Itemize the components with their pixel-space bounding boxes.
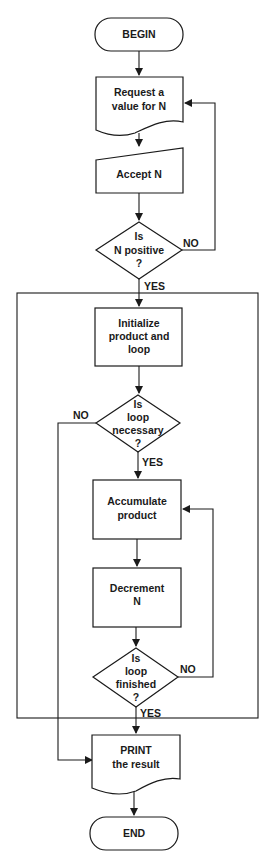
node-request-label-2: value for N <box>112 100 166 112</box>
node-loop-finished-label-4: ? <box>133 691 139 703</box>
node-loop-necessary: Is loop necessary ? <box>96 395 180 452</box>
edge-label-positive-no: NO <box>183 237 199 249</box>
node-decrement-label-2: N <box>133 595 141 607</box>
node-initialize-label-1: Initialize <box>118 317 160 329</box>
node-print-label-2: the result <box>112 758 160 770</box>
edge-label-finished-yes: YES <box>140 707 161 719</box>
edge-finished-no <box>178 509 213 677</box>
edge-positive-no <box>182 103 215 250</box>
edge-label-finished-no: NO <box>180 663 196 675</box>
node-loop-finished-label-2: loop <box>125 665 147 677</box>
node-print: PRINT the result <box>92 735 180 794</box>
node-end-label: END <box>123 827 146 839</box>
node-loop-necessary-label-3: necessary <box>112 424 164 436</box>
node-loop-finished: Is loop finished ? <box>93 648 178 707</box>
node-accumulate: Accumulate product <box>93 480 181 539</box>
node-accept: Accept N <box>96 148 183 193</box>
node-decrement-label-1: Decrement <box>110 582 165 594</box>
node-loop-necessary-label-2: loop <box>127 411 149 423</box>
node-accumulate-label-2: product <box>117 509 157 521</box>
edge-label-necessary-yes: YES <box>142 456 163 468</box>
node-decrement: Decrement N <box>93 568 181 627</box>
node-initialize-label-2: product and <box>109 330 170 342</box>
flowchart: BEGIN Request a value for N Accept N Is … <box>0 0 261 862</box>
node-loop-necessary-label-1: Is <box>134 398 143 410</box>
edge-label-positive-yes: YES <box>144 280 165 292</box>
edge-label-necessary-no: NO <box>73 409 89 421</box>
node-end: END <box>90 817 178 850</box>
node-is-positive-label-1: Is <box>135 230 144 242</box>
edge-necessary-no <box>58 423 96 760</box>
node-loop-finished-label-3: finished <box>116 678 156 690</box>
node-accept-label: Accept N <box>116 168 162 180</box>
node-is-positive-label-3: ? <box>136 257 142 269</box>
node-is-positive-label-2: N positive <box>114 244 164 256</box>
node-request: Request a value for N <box>96 77 183 135</box>
node-loop-necessary-label-4: ? <box>135 437 141 449</box>
node-print-label-1: PRINT <box>120 744 152 756</box>
node-begin: BEGIN <box>95 18 183 51</box>
node-initialize-label-3: loop <box>128 343 150 355</box>
node-request-label-1: Request a <box>114 86 164 98</box>
node-loop-finished-label-1: Is <box>132 652 141 664</box>
node-is-positive: Is N positive ? <box>96 222 182 279</box>
node-initialize: Initialize product and loop <box>95 308 182 366</box>
node-begin-label: BEGIN <box>122 28 155 40</box>
node-accumulate-label-1: Accumulate <box>107 495 167 507</box>
